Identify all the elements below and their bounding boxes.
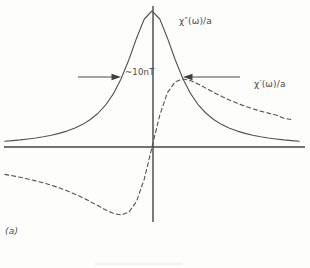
linewidth-arrow-left	[78, 74, 121, 80]
linewidth-annotation: ~10nT	[125, 67, 155, 78]
susceptibility-figure: χ″(ω)/a χ′(ω)/a ~10nT (a)	[0, 0, 310, 268]
absorption-curve-label: χ″(ω)/a	[179, 16, 212, 27]
arrowhead-right-icon	[112, 74, 122, 80]
scan-artifact	[95, 263, 183, 265]
plot-svg	[0, 0, 310, 268]
panel-label: (a)	[5, 226, 18, 237]
dispersion-curve-label: χ′(ω)/a	[254, 79, 286, 90]
linewidth-arrow-right	[183, 74, 240, 80]
curves-layer	[5, 11, 300, 215]
